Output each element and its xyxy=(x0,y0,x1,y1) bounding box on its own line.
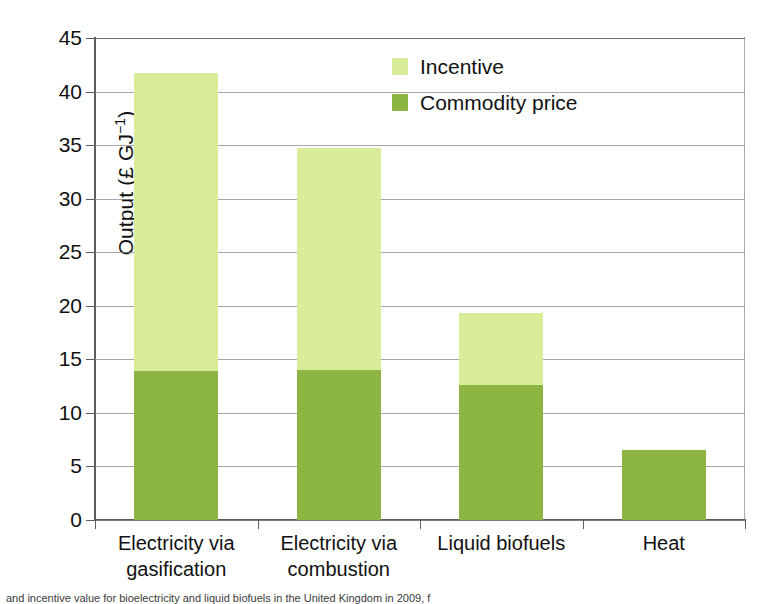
x-tick-mark-3 xyxy=(583,520,584,529)
x-category-label-1-line-1: Electricity via xyxy=(95,530,258,556)
bar-1 xyxy=(134,73,218,520)
x-tick-mark-1 xyxy=(258,520,259,529)
bar-segment-incentive-1 xyxy=(134,73,218,371)
x-tick-mark-2 xyxy=(420,520,421,529)
y-axis-tick-labels: 051015202530354045 xyxy=(24,0,82,604)
figure-caption: and incentive value for bioelectricity a… xyxy=(6,592,756,604)
y-tick-label-35: 35 xyxy=(38,134,82,155)
y-tick-mark-40 xyxy=(86,92,95,93)
y-tick-mark-45 xyxy=(86,38,95,39)
x-category-label-1-line-2: gasification xyxy=(95,556,258,582)
x-category-label-3-line-1: Liquid biofuels xyxy=(420,530,583,556)
y-tick-label-20: 20 xyxy=(38,295,82,316)
legend-swatch-incentive xyxy=(392,58,408,75)
x-category-label-4-line-1: Heat xyxy=(583,530,746,556)
y-tick-label-10: 10 xyxy=(38,402,82,423)
legend-item-commodity: Commodity price xyxy=(392,84,632,120)
y-tick-mark-25 xyxy=(86,252,95,253)
y-tick-label-5: 5 xyxy=(38,455,82,476)
bar-segment-commodity-1 xyxy=(134,371,218,520)
x-tick-mark-0 xyxy=(95,520,96,529)
x-category-label-4: Heat xyxy=(583,530,746,556)
legend-item-incentive: Incentive xyxy=(392,48,632,84)
x-tick-mark-4 xyxy=(745,520,746,529)
y-tick-label-40: 40 xyxy=(38,81,82,102)
y-tick-label-15: 15 xyxy=(38,348,82,369)
x-axis-category-labels: Electricity viagasificationElectricity v… xyxy=(95,530,745,592)
legend-label-incentive: Incentive xyxy=(420,56,504,77)
y-tick-mark-35 xyxy=(86,145,95,146)
y-tick-mark-30 xyxy=(86,199,95,200)
x-category-label-2-line-1: Electricity via xyxy=(258,530,421,556)
legend-swatch-commodity xyxy=(392,94,408,111)
x-category-label-1: Electricity viagasification xyxy=(95,530,258,582)
x-category-label-3: Liquid biofuels xyxy=(420,530,583,556)
bar-segment-commodity-2 xyxy=(297,370,381,520)
y-tick-label-45: 45 xyxy=(38,27,82,48)
bar-segment-incentive-2 xyxy=(297,148,381,370)
gridline-45 xyxy=(95,38,745,39)
chart-legend: IncentiveCommodity price xyxy=(392,48,632,120)
chart-figure: Output (£ GJ−1) 051015202530354045 Elect… xyxy=(0,0,762,604)
bar-4 xyxy=(622,450,706,520)
x-category-label-2: Electricity viacombustion xyxy=(258,530,421,582)
y-tick-mark-10 xyxy=(86,413,95,414)
bar-segment-incentive-3 xyxy=(459,313,543,385)
y-tick-label-25: 25 xyxy=(38,241,82,262)
bar-2 xyxy=(297,148,381,520)
y-tick-mark-15 xyxy=(86,359,95,360)
y-tick-mark-0 xyxy=(86,520,95,521)
y-tick-label-0: 0 xyxy=(38,509,82,530)
bar-segment-commodity-3 xyxy=(459,385,543,520)
x-category-label-2-line-2: combustion xyxy=(258,556,421,582)
y-tick-mark-20 xyxy=(86,306,95,307)
bar-segment-commodity-4 xyxy=(622,450,706,520)
y-tick-label-30: 30 xyxy=(38,188,82,209)
y-tick-mark-5 xyxy=(86,466,95,467)
legend-label-commodity: Commodity price xyxy=(420,92,578,113)
bar-3 xyxy=(459,313,543,520)
